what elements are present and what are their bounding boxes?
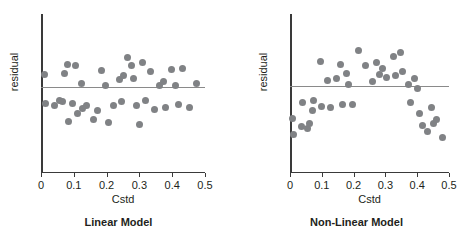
x-tick xyxy=(417,173,418,177)
scatter-point xyxy=(51,102,58,109)
scatter-point xyxy=(318,103,325,110)
y-axis-label: residual xyxy=(8,42,20,102)
scatter-point xyxy=(414,85,421,92)
scatter-point xyxy=(383,74,390,81)
scatter-point xyxy=(142,97,149,104)
scatter-point xyxy=(290,131,297,138)
scatter-point xyxy=(407,99,414,106)
scatter-point xyxy=(136,121,143,128)
scatter-point xyxy=(424,128,431,135)
scatter-points-non-linear xyxy=(238,0,475,247)
scatter-point xyxy=(162,104,169,111)
scatter-point xyxy=(64,61,71,68)
x-tick xyxy=(107,173,108,177)
scatter-points-linear xyxy=(0,0,237,247)
x-tick xyxy=(322,173,323,177)
x-tick xyxy=(205,173,206,177)
scatter-point xyxy=(289,115,296,122)
x-tick-label: 0.2 xyxy=(341,179,367,191)
panel-linear-model: residual Cstd Linear Model 00.10.20.30.4… xyxy=(0,0,237,247)
scatter-point xyxy=(78,80,85,87)
scatter-point xyxy=(343,70,350,77)
scatter-point xyxy=(416,110,423,117)
scatter-point xyxy=(120,72,127,79)
scatter-point xyxy=(42,100,49,107)
x-tick xyxy=(139,173,140,177)
scatter-point xyxy=(373,59,380,66)
scatter-point xyxy=(439,134,446,141)
scatter-point xyxy=(310,97,317,104)
scatter-point xyxy=(102,82,109,89)
scatter-point xyxy=(186,104,193,111)
x-tick-label: 0.5 xyxy=(436,179,462,191)
x-tick xyxy=(354,173,355,177)
scatter-point xyxy=(90,116,97,123)
scatter-point xyxy=(397,49,404,56)
scatter-point xyxy=(317,58,324,65)
x-tick-label: 0.2 xyxy=(94,179,120,191)
scatter-point xyxy=(83,102,90,109)
panel-caption-non-linear: Non-Linear Model xyxy=(238,216,475,229)
scatter-point xyxy=(362,62,369,69)
scatter-point xyxy=(128,62,135,69)
x-tick-label: 0.5 xyxy=(192,179,218,191)
scatter-point xyxy=(345,81,352,88)
x-tick xyxy=(290,173,291,177)
residual-plots-figure: residual Cstd Linear Model 00.10.20.30.4… xyxy=(0,0,475,247)
scatter-point xyxy=(428,104,435,111)
scatter-point xyxy=(411,75,418,82)
y-axis-label: residual xyxy=(257,42,269,102)
x-axis-label: Cstd xyxy=(41,193,205,205)
scatter-point xyxy=(94,107,101,114)
x-tick-label: 0.3 xyxy=(126,179,152,191)
x-tick-label: 0.4 xyxy=(404,179,430,191)
scatter-point xyxy=(139,59,146,66)
x-tick xyxy=(172,173,173,177)
scatter-point xyxy=(130,75,137,82)
scatter-point xyxy=(193,80,200,87)
scatter-point xyxy=(172,82,179,89)
x-tick xyxy=(385,173,386,177)
x-tick-label: 0 xyxy=(28,179,54,191)
scatter-point xyxy=(339,101,346,108)
scatter-point xyxy=(369,78,376,85)
scatter-point xyxy=(69,100,76,107)
scatter-point xyxy=(110,102,117,109)
scatter-point xyxy=(309,107,316,114)
scatter-point xyxy=(349,101,356,108)
scatter-point xyxy=(179,65,186,72)
x-axis-label: Cstd xyxy=(290,193,449,205)
scatter-point xyxy=(105,119,112,126)
scatter-point xyxy=(327,104,334,111)
scatter-point xyxy=(324,77,331,84)
scatter-point xyxy=(299,99,306,106)
scatter-point xyxy=(337,61,344,68)
x-tick-label: 0.4 xyxy=(159,179,185,191)
scatter-point xyxy=(160,78,167,85)
scatter-point xyxy=(379,65,386,72)
scatter-point xyxy=(72,62,79,69)
x-tick-label: 0.3 xyxy=(372,179,398,191)
panel-caption-linear: Linear Model xyxy=(0,216,237,229)
scatter-point xyxy=(61,70,68,77)
scatter-point xyxy=(306,120,313,127)
panel-non-linear-model: residual Cstd Non-Linear Model 00.10.20.… xyxy=(238,0,475,247)
scatter-point xyxy=(133,102,140,109)
x-tick xyxy=(449,173,450,177)
scatter-point xyxy=(390,53,397,60)
scatter-point xyxy=(175,101,182,108)
scatter-point xyxy=(433,116,440,123)
x-tick xyxy=(74,173,75,177)
scatter-point xyxy=(333,75,340,82)
scatter-point xyxy=(147,68,154,75)
scatter-point xyxy=(65,118,72,125)
scatter-point xyxy=(355,47,362,54)
x-tick xyxy=(41,173,42,177)
scatter-point xyxy=(399,68,406,75)
x-tick-label: 0.1 xyxy=(309,179,335,191)
x-tick-label: 0.1 xyxy=(61,179,87,191)
scatter-point xyxy=(118,98,125,105)
scatter-point xyxy=(124,54,131,61)
scatter-point xyxy=(392,72,399,79)
scatter-point xyxy=(151,106,158,113)
